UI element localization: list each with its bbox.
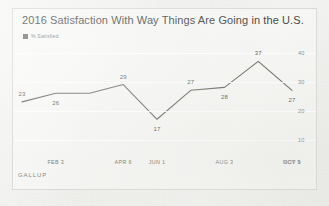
data-point-label: 27 [288, 97, 295, 103]
x-axis-tick-label: AUG 3 [216, 159, 234, 165]
x-axis-tick-label: JUN 1 [149, 159, 166, 165]
gridline [14, 53, 315, 54]
data-point-label: 28 [221, 94, 228, 100]
source-attribution: GALLUP [18, 172, 47, 178]
y-axis-tick-label: 30 [298, 79, 305, 85]
y-axis-tick-label: 40 [298, 50, 305, 56]
chart-legend: % Satisfied [23, 33, 59, 39]
page-title: 2016 Satisfaction With Way Things Are Go… [22, 14, 304, 26]
gridline [14, 111, 315, 112]
legend-swatch-icon [23, 34, 28, 39]
data-point-label: 26 [52, 100, 59, 106]
data-point-label: 23 [18, 91, 25, 97]
line-series [22, 44, 292, 154]
legend-label: % Satisfied [31, 33, 59, 39]
chart-screenshot: 2016 Satisfaction With Way Things Are Go… [0, 0, 329, 206]
data-point-label: 27 [187, 79, 194, 85]
gridline [14, 140, 315, 141]
y-axis-tick-label: 10 [298, 137, 305, 143]
x-axis-tick-label: NOV 9 [283, 159, 301, 165]
x-axis-tick-label: APR 6 [115, 159, 132, 165]
y-axis-tick-label: 20 [298, 108, 305, 114]
gridline [14, 82, 315, 83]
data-point-label: 37 [255, 50, 262, 56]
data-point-label: 29 [120, 74, 127, 80]
x-axis-tick-label: FEB 3 [47, 159, 64, 165]
data-point-label: 17 [153, 126, 160, 132]
plot-area [22, 44, 292, 154]
